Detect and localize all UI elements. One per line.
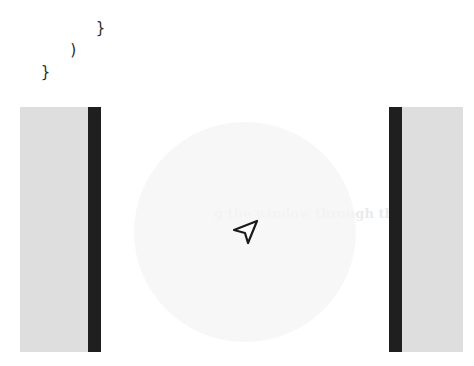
closing-paren: ) — [69, 42, 78, 58]
right-gray-panel — [402, 107, 463, 352]
code-snippet: } ) } — [0, 0, 474, 100]
right-dark-divider — [389, 107, 402, 352]
send-pointer-icon — [232, 219, 260, 245]
closing-brace-inner: } — [96, 20, 105, 36]
left-dark-divider — [88, 107, 101, 352]
left-gray-panel — [20, 107, 88, 352]
closing-brace-outer: } — [41, 64, 50, 80]
